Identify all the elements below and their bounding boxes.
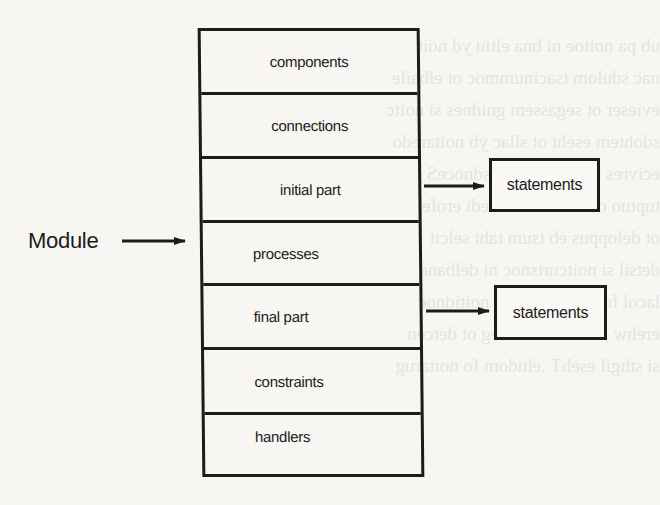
connector-arrows — [0, 0, 642, 505]
